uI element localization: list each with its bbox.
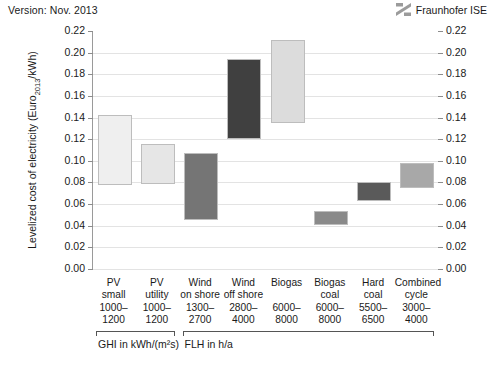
plot-area: 0.220.220.200.200.180.180.160.160.140.14… [92, 31, 438, 269]
y-tick-mark [438, 53, 443, 54]
x-label-line: 4000 [222, 314, 265, 326]
y-tick-mark [438, 269, 443, 270]
y-tick-label-left: 0.18 [65, 67, 85, 79]
gridline [93, 53, 438, 54]
x-label-line: 4000 [395, 314, 438, 326]
x-label-line: PV [135, 277, 178, 289]
group-label: FLH in h/a [185, 338, 233, 350]
x-category-label-combined-cycle: Combinedcycle3000–4000 [395, 277, 438, 327]
y-tick-label-left: 0.04 [65, 219, 85, 231]
gridline [93, 118, 438, 119]
x-label-line: 8000 [308, 314, 351, 326]
x-category-label-hard-coal: Hardcoal5500–6500 [352, 277, 395, 327]
bar-biogas-coal [314, 211, 348, 225]
x-label-line: Wind [179, 277, 222, 289]
x-label-line: 2800– [222, 302, 265, 314]
x-label-line: 3000– [395, 302, 438, 314]
y-tick-label-right: 0.00 [446, 262, 466, 274]
x-label-line: 1200 [92, 314, 135, 326]
y-tick-label-left: 0.08 [65, 175, 85, 187]
y-tick-label-right: 0.20 [446, 46, 466, 58]
y-tick-mark [88, 204, 93, 205]
group-bracket [183, 331, 435, 336]
x-label-line: coal [352, 289, 395, 301]
x-label-line: 5500– [352, 302, 395, 314]
x-label-line: Biogas [308, 277, 351, 289]
bar-pv-small [98, 115, 132, 184]
y-tick-mark [438, 161, 443, 162]
bar-wind-on-shore [184, 153, 218, 220]
bar-hard-coal [357, 182, 391, 200]
x-label-line: Hard [352, 277, 395, 289]
y-tick-mark [88, 96, 93, 97]
gridline [93, 247, 438, 248]
y-tick-label-left: 0.00 [65, 262, 85, 274]
brand-name: Fraunhofer ISE [416, 4, 487, 16]
gridline [93, 226, 438, 227]
y-tick-label-right: 0.06 [446, 197, 466, 209]
y-tick-mark [438, 31, 443, 32]
y-tick-label-right: 0.18 [446, 67, 466, 79]
y-tick-label-right: 0.12 [446, 132, 466, 144]
gridline [93, 74, 438, 75]
x-category-label-wind-on-shore: Windon shore1300–2700 [179, 277, 222, 327]
gridline [93, 139, 438, 140]
x-label-line: Combined [395, 277, 438, 289]
x-label-line: 6000– [265, 302, 308, 314]
version-label: Version: Nov. 2013 [8, 4, 98, 16]
x-label-line: Wind [222, 277, 265, 289]
x-label-line: on shore [179, 289, 222, 301]
y-tick-mark [438, 118, 443, 119]
bar-pv-utility [141, 144, 175, 184]
y-tick-label-left: 0.06 [65, 197, 85, 209]
y-tick-label-right: 0.04 [446, 219, 466, 231]
y-tick-label-right: 0.10 [446, 154, 466, 166]
y-tick-mark [88, 247, 93, 248]
y-tick-label-right: 0.16 [446, 89, 466, 101]
y-tick-label-left: 0.20 [65, 46, 85, 58]
x-label-line: 6000– [308, 302, 351, 314]
fraunhofer-logo-icon [396, 3, 411, 16]
x-label-line: 8000 [265, 314, 308, 326]
x-label-line [265, 289, 308, 301]
y-tick-label-left: 0.02 [65, 240, 85, 252]
y-tick-mark [88, 31, 93, 32]
brand-logo: Fraunhofer ISE [396, 3, 487, 16]
y-tick-label-left: 0.12 [65, 132, 85, 144]
y-tick-mark [438, 204, 443, 205]
y-tick-label-right: 0.08 [446, 175, 466, 187]
y-tick-mark [88, 74, 93, 75]
y-tick-mark [438, 247, 443, 248]
y-tick-mark [88, 161, 93, 162]
x-category-label-pv-utility: PVutility1000–1200 [135, 277, 178, 327]
y-tick-mark [88, 53, 93, 54]
y-tick-mark [438, 226, 443, 227]
x-label-line: 1200 [135, 314, 178, 326]
x-label-line: off shore [222, 289, 265, 301]
x-label-line: coal [308, 289, 351, 301]
x-label-line: 6500 [352, 314, 395, 326]
gridline [93, 269, 438, 270]
y-tick-mark [88, 182, 93, 183]
y-tick-mark [438, 182, 443, 183]
x-label-line: 1000– [135, 302, 178, 314]
x-label-line: 2700 [179, 314, 222, 326]
gridline [93, 204, 438, 205]
y-tick-label-right: 0.14 [446, 111, 466, 123]
x-category-label-biogas-coal: Biogascoal6000–8000 [308, 277, 351, 327]
y-tick-mark [88, 118, 93, 119]
y-tick-label-left: 0.14 [65, 111, 85, 123]
y-tick-mark [438, 96, 443, 97]
y-tick-mark [88, 226, 93, 227]
x-category-label-biogas: Biogas 6000–8000 [265, 277, 308, 327]
y-tick-label-left: 0.22 [65, 24, 85, 36]
y-tick-label-left: 0.10 [65, 154, 85, 166]
group-label: GHI in kWh/(m²s) [98, 338, 179, 350]
x-label-line: small [92, 289, 135, 301]
x-category-label-wind-off-shore: Windoff shore2800–4000 [222, 277, 265, 327]
y-tick-mark [438, 74, 443, 75]
x-label-line: 1000– [92, 302, 135, 314]
bar-combined-cycle [400, 163, 434, 188]
y-tick-mark [438, 139, 443, 140]
y-tick-mark [88, 269, 93, 270]
